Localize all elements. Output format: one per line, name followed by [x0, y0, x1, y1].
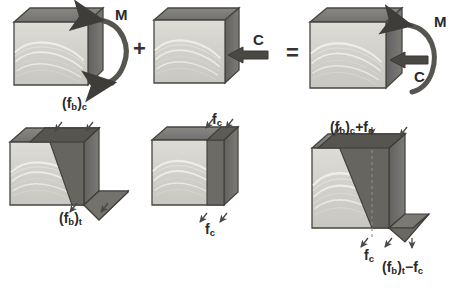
label-fb-c-text: (fb)c	[62, 95, 87, 111]
label-fc-axial-top-text: fc	[212, 111, 222, 127]
label-fb-c-plus-fc: (fb)c+fc	[330, 120, 373, 134]
label-fc-axial-bottom-text: fc	[205, 221, 215, 237]
label-fb-c: (fb)c	[62, 96, 87, 110]
block-axial-compression	[154, 8, 268, 83]
label-moment-left: M	[115, 7, 128, 22]
label-fb-t-minus-fc: (fb)t−fc	[382, 260, 423, 274]
block-bending-moment	[14, 8, 126, 85]
label-fc-combined: fc	[364, 248, 374, 262]
label-fb-t-minus-fc-text: (fb)t−fc	[382, 259, 423, 275]
stress-block-combined	[312, 127, 429, 248]
label-fc-axial-top: fc	[212, 112, 222, 126]
operator-equals: =	[286, 42, 299, 64]
label-fb-t-text: (fb)t	[59, 210, 82, 226]
label-compression-mid: C	[253, 32, 264, 47]
label-fb-t: (fb)t	[59, 211, 82, 225]
label-fc-axial-bottom: fc	[205, 222, 215, 236]
stress-block-bending	[10, 122, 128, 220]
operator-plus: +	[133, 38, 146, 60]
label-fc-combined-text: fc	[364, 247, 374, 263]
stress-block-axial	[152, 119, 238, 222]
label-compression-right: C	[414, 69, 425, 84]
label-fb-c-plus-fc-text: (fb)c+fc	[330, 119, 373, 135]
label-moment-right: M	[434, 14, 447, 29]
diagram-geometry	[0, 0, 458, 288]
figure-canvas: + = M C M C (fb)c (fb)t fc fc (fb)c+fc f…	[0, 0, 458, 288]
